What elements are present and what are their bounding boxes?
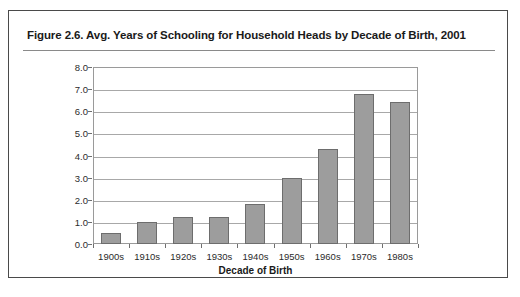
bar-series	[93, 67, 418, 244]
bar	[137, 222, 157, 244]
x-axis-tick-mark	[237, 244, 238, 248]
bar-slot	[129, 67, 165, 244]
bar	[318, 149, 338, 244]
y-axis-tick-label: 6.0	[75, 106, 88, 117]
y-axis-tick-label: 0.0	[75, 239, 88, 250]
chart-plot: 0.01.02.03.04.05.06.07.08.0 1900s1910s19…	[9, 11, 509, 279]
y-axis-tick-labels: 0.01.02.03.04.05.06.07.08.0	[57, 67, 88, 244]
bar-slot	[310, 67, 346, 244]
y-axis-tick-label: 2.0	[75, 194, 88, 205]
x-axis-tick-mark	[382, 244, 383, 248]
x-axis-tick-mark	[346, 244, 347, 248]
figure-container: Figure 2.6. Avg. Years of Schooling for …	[8, 10, 508, 278]
x-axis-tick-label: 1950s	[279, 251, 305, 262]
x-axis-tick-label: 1900s	[98, 251, 124, 262]
x-axis-tick-label: 1930s	[206, 251, 232, 262]
bar-slot	[346, 67, 382, 244]
y-axis-tick-mark	[88, 89, 92, 90]
x-axis-title: Decade of Birth	[93, 265, 418, 276]
y-axis-tick-mark	[88, 111, 92, 112]
x-axis-tick-label: 1910s	[134, 251, 160, 262]
y-axis-tick-mark	[88, 178, 92, 179]
bar	[282, 178, 302, 244]
y-axis-tick-label: 1.0	[75, 216, 88, 227]
y-axis-tick-label: 3.0	[75, 172, 88, 183]
x-axis-tick-label: 1960s	[315, 251, 341, 262]
y-axis-tick-label: 5.0	[75, 128, 88, 139]
bar	[354, 94, 374, 244]
x-axis-tick-label: 1970s	[351, 251, 377, 262]
x-axis-tick-label: 1940s	[243, 251, 269, 262]
bar-slot	[237, 67, 273, 244]
bar-slot	[93, 67, 129, 244]
x-axis-tick-mark	[93, 244, 94, 248]
x-axis-tick-label: 1980s	[387, 251, 413, 262]
y-axis-tick-mark	[88, 156, 92, 157]
y-axis-tick-mark	[88, 222, 92, 223]
y-axis-tick-label: 4.0	[75, 150, 88, 161]
bar	[245, 204, 265, 244]
x-axis-tick-mark	[129, 244, 130, 248]
x-axis-tick-mark	[274, 244, 275, 248]
x-axis-tick-mark	[418, 244, 419, 248]
bar	[173, 217, 193, 244]
bar-slot	[274, 67, 310, 244]
x-axis-tick-label: 1920s	[170, 251, 196, 262]
x-axis-tick-mark	[201, 244, 202, 248]
bar-slot	[382, 67, 418, 244]
bar	[101, 233, 121, 244]
y-axis-tick-mark	[88, 133, 92, 134]
y-axis-tick-mark	[88, 244, 92, 245]
y-axis-tick-label: 8.0	[75, 62, 88, 73]
bar-slot	[201, 67, 237, 244]
bar	[390, 102, 410, 244]
y-axis-tick-mark	[88, 67, 92, 68]
bar	[209, 217, 229, 244]
x-axis-tick-mark	[165, 244, 166, 248]
y-axis-tick-label: 7.0	[75, 84, 88, 95]
x-axis-tick-mark	[310, 244, 311, 248]
y-axis-tick-mark	[88, 200, 92, 201]
bar-slot	[165, 67, 201, 244]
